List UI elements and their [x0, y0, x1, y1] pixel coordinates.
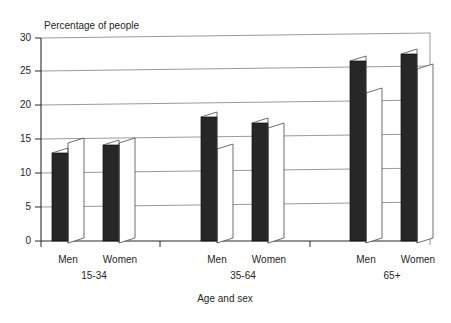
y-tick-label-10: 10 [20, 167, 32, 178]
front-bar-15-34-men [52, 153, 68, 241]
front-bar-65plus-men [350, 61, 366, 241]
x-group-label-15-34: 15-34 [81, 270, 107, 281]
y-tick-label-30: 30 [20, 32, 32, 43]
x-group-label-65plus: 65+ [384, 270, 401, 281]
back-bar-35-64-women [268, 123, 284, 243]
front-bar-35-64-women [252, 123, 268, 241]
back-bar-65plus-men [366, 88, 382, 243]
x-axis-title: Age and sex [197, 293, 253, 304]
x-label-65plus-women: Women [401, 254, 435, 265]
x-label-35-64-men: Men [207, 254, 226, 265]
front-bar-15-34-women [103, 145, 119, 241]
y-tick-label-15: 15 [20, 133, 32, 144]
y-tick-label-5: 5 [25, 201, 31, 212]
x-group-label-35-64: 35-64 [230, 270, 256, 281]
chart-container: 30 25 20 15 10 5 0 Percentage of people [0, 0, 451, 323]
back-bar-15-34-men [68, 138, 84, 243]
x-label-15-34-men: Men [58, 254, 77, 265]
chart-title: Percentage of people [44, 20, 140, 31]
bar-chart: 30 25 20 15 10 5 0 Percentage of people [0, 0, 451, 323]
x-label-65plus-men: Men [356, 254, 375, 265]
back-bar-35-64-men [217, 144, 233, 243]
y-tick-label-20: 20 [20, 99, 32, 110]
y-tick-label-0: 0 [25, 235, 31, 246]
back-bar-15-34-women [119, 138, 135, 243]
front-bar-35-64-men [201, 117, 217, 241]
y-tick-label-25: 25 [20, 65, 32, 76]
x-label-15-34-women: Women [103, 254, 137, 265]
front-bar-65plus-women [401, 54, 417, 241]
x-label-35-64-women: Women [252, 254, 286, 265]
back-bar-65plus-women [417, 64, 433, 243]
